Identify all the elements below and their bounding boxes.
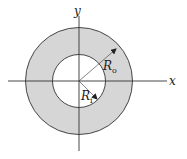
outer-radius-label-main: R	[102, 59, 112, 73]
inner-radius-label-main: R	[80, 89, 90, 103]
y-axis-label: y	[73, 4, 81, 18]
annulus-diagram: x y Ro Ri	[0, 0, 187, 159]
x-axis-label: x	[169, 74, 176, 88]
inner-radius-label-sub: i	[90, 96, 93, 105]
outer-radius-label-sub: o	[112, 66, 117, 75]
inner-radius-label: Ri	[80, 89, 93, 105]
